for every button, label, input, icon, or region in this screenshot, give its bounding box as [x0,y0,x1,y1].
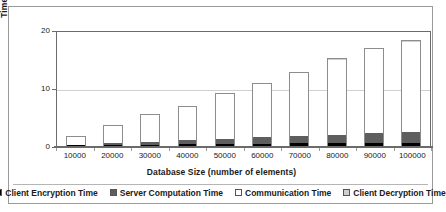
legend-item[interactable]: Client Encryption Time [0,188,98,198]
x-tick-mark [431,148,432,151]
legend-item[interactable]: Communication Time [235,188,331,198]
bar-segment [365,49,383,133]
x-tick-mark [244,148,245,151]
y-tick-label: 20 [22,27,50,35]
bar-slot [245,32,279,147]
bar-segment [141,115,159,141]
bar-segment [179,107,197,140]
x-tick-mark [281,148,282,151]
y-axis-title: Time (minutes) [0,0,9,47]
x-tick-mark [131,148,132,151]
x-tick-label: 30000 [130,151,170,160]
legend-swatch-icon [235,189,242,196]
x-tick-mark [206,148,207,151]
bar-segment [328,135,346,144]
bar-slot [282,32,316,147]
bar-segment [328,60,346,135]
bar-segment [104,126,122,143]
stacked-bar[interactable] [140,114,160,147]
chart-legend: Client Encryption TimeServer Computation… [13,184,428,200]
bar-segment [365,133,383,143]
stacked-bar[interactable] [252,83,272,147]
bar-slot [320,32,354,147]
x-tick-mark [394,148,395,151]
stacked-bar[interactable] [327,58,347,147]
legend-item[interactable]: Server Computation Time [110,188,223,198]
stacked-bar[interactable] [364,48,384,147]
x-tick-mark [169,148,170,151]
legend-swatch-icon [0,189,2,196]
legend-item[interactable]: Client Decryption Time [343,188,445,198]
stacked-bar[interactable] [401,40,421,147]
bar-series-container [57,32,430,147]
x-tick-label: 100000 [392,151,432,160]
legend-label: Server Computation Time [120,188,223,198]
chart-outer-border: Time (minutes) 01020 1000020000300004000… [8,6,433,204]
bar-slot [208,32,242,147]
legend-swatch-icon [343,189,350,196]
x-tick-mark [356,148,357,151]
y-tick-label: 0 [22,143,50,151]
stacked-bar[interactable] [103,125,123,147]
x-tick-label: 20000 [92,151,132,160]
bar-slot [58,32,92,147]
bar-slot [357,32,391,147]
legend-label: Client Decryption Time [353,188,445,198]
bar-segment [216,94,234,138]
bar-slot [170,32,204,147]
x-tick-mark [319,148,320,151]
bar-segment [290,136,308,144]
x-tick-label: 50000 [205,151,245,160]
x-tick-label: 90000 [355,151,395,160]
bar-slot [133,32,167,147]
bar-segment [67,137,85,145]
x-tick-label: 10000 [55,151,95,160]
x-tick-label: 70000 [280,151,320,160]
x-tick-mark [94,148,95,151]
legend-swatch-icon [110,189,117,196]
stacked-bar[interactable] [178,106,198,147]
stacked-bar[interactable] [215,93,235,147]
legend-label: Client Encryption Time [5,188,97,198]
bar-segment [253,84,271,137]
x-tick-label: 60000 [242,151,282,160]
y-tick-label: 10 [22,85,50,93]
x-axis-title: Database Size (number of elements) [9,167,434,177]
x-tick-label: 80000 [317,151,357,160]
x-tick-label: 40000 [167,151,207,160]
bar-segment [402,132,420,143]
bar-segment [290,73,308,136]
x-tick-mark [56,148,57,151]
bar-slot [96,32,130,147]
stacked-bar[interactable] [289,72,309,147]
bar-slot [394,32,428,147]
bar-segment [402,42,420,132]
plot-area [56,31,431,147]
legend-label: Communication Time [245,188,331,198]
